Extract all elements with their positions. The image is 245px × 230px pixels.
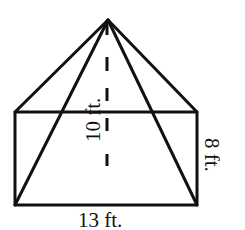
pyramid-prism-diagram: 10 ft. 8 ft. 13 ft. [0, 0, 245, 230]
height-label: 10 ft. [81, 98, 105, 142]
prism-height-label: 8 ft. [200, 138, 224, 172]
pyramid-edge-right-outer [108, 20, 197, 112]
base-width-label: 13 ft. [78, 208, 122, 230]
